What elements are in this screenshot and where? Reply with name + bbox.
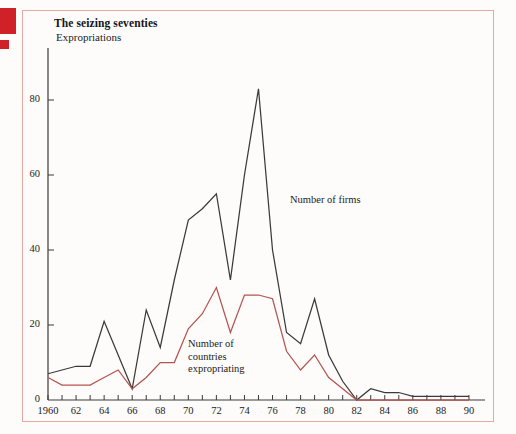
chart-subtitle: Expropriations (56, 31, 121, 43)
red-marker-tab (0, 40, 9, 49)
series-label-firms: Number of firms (290, 194, 361, 207)
y-tick-label: 0 (14, 393, 40, 404)
chart-figure: The seizing seventies Expropriations 020… (0, 0, 516, 434)
chart-title: The seizing seventies (54, 17, 158, 29)
series-label-countries: Number of countries expropriating (188, 338, 245, 376)
chart-frame (22, 10, 494, 422)
y-tick-label: 60 (14, 168, 40, 179)
x-tick-label: 90 (449, 405, 489, 416)
red-marker-block (0, 8, 16, 34)
y-tick-label: 40 (14, 243, 40, 254)
y-tick-label: 20 (14, 318, 40, 329)
y-tick-label: 80 (14, 93, 40, 104)
